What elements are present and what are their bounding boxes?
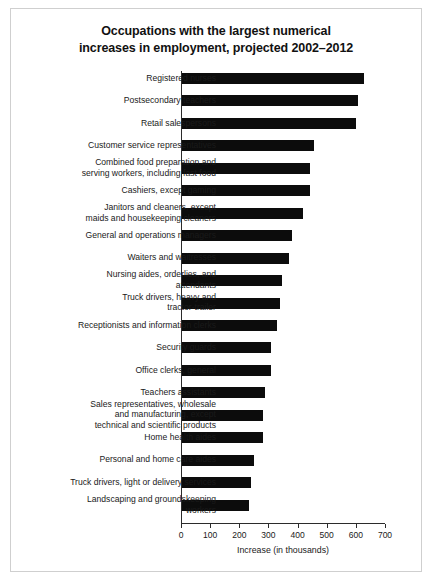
category-label: Teachers assistants: [20, 387, 216, 398]
x-axis-line: [181, 523, 385, 524]
x-tick-700: [385, 524, 386, 528]
category-label: Truck drivers, light or delivery service…: [20, 477, 216, 488]
category-label-line: Cashiers, except gaming: [20, 185, 216, 196]
x-tick-0: [181, 524, 182, 528]
chart-title-line-2: increases in employment, projected 2002–…: [25, 40, 407, 57]
category-label-line: Truck drivers, light or delivery service…: [20, 477, 216, 488]
category-label: Security guards: [20, 342, 216, 353]
x-tick-500: [327, 524, 328, 528]
x-tick-100: [210, 524, 211, 528]
chart-title-line-1: Occupations with the largest numerical: [25, 23, 407, 40]
x-tick-label-200: 200: [232, 530, 246, 540]
x-tick-label-100: 100: [203, 530, 217, 540]
category-label-line: Receptionists and information clerks: [20, 320, 216, 331]
category-label: Waiters and waitresses: [20, 252, 216, 263]
category-label-line: Nursing aides, orderlies, and: [20, 269, 216, 280]
category-label: Registered nurses: [20, 73, 216, 84]
category-label: General and operations managers: [20, 230, 216, 241]
category-label-line: serving workers, including fast food: [20, 168, 216, 179]
category-label-line: technical and scientific products: [20, 420, 216, 431]
category-label-line: Waiters and waitresses: [20, 252, 216, 263]
x-tick-label-700: 700: [378, 530, 392, 540]
category-label-line: Janitors and cleaners, except: [20, 202, 216, 213]
x-axis-title: Increase (in thousands): [181, 545, 385, 555]
category-label-line: Office clerks, general: [20, 365, 216, 376]
category-label: Postsecondary teachers: [20, 95, 216, 106]
x-tick-200: [239, 524, 240, 528]
category-label-line: Registered nurses: [20, 73, 216, 84]
plot-area: 0100200300400500600700 Registered nurses…: [181, 71, 394, 523]
category-label: Truck drivers, heavy andtractor-trailer: [20, 292, 216, 313]
x-tick-300: [268, 524, 269, 528]
category-label-line: tractor-trailer: [20, 302, 216, 313]
category-label-line: Personal and home care aides: [20, 454, 216, 465]
category-label: Personal and home care aides: [20, 454, 216, 465]
x-tick-label-400: 400: [290, 530, 304, 540]
category-label-line: maids and housekeeping cleaners: [20, 213, 216, 224]
x-tick-label-500: 500: [320, 530, 334, 540]
chart-figure: Occupations with the largest numerical i…: [10, 8, 422, 572]
x-tick-label-300: 300: [261, 530, 275, 540]
category-label: Cashiers, except gaming: [20, 185, 216, 196]
category-label: Landscaping and groundskeepingworkers: [20, 494, 216, 515]
x-tick-600: [356, 524, 357, 528]
category-label-line: Sales representatives, wholesale: [20, 399, 216, 410]
category-label: Combined food preparation andserving wor…: [20, 157, 216, 178]
category-label-line: Truck drivers, heavy and: [20, 292, 216, 303]
x-tick-label-0: 0: [179, 530, 184, 540]
x-tick-label-600: 600: [349, 530, 363, 540]
x-tick-400: [298, 524, 299, 528]
category-label: Janitors and cleaners, exceptmaids and h…: [20, 202, 216, 223]
category-label-line: Customer service representatives: [20, 140, 216, 151]
category-label: Receptionists and information clerks: [20, 320, 216, 331]
category-label-line: Combined food preparation and: [20, 157, 216, 168]
category-label-line: and manufacturing, except: [20, 409, 216, 420]
category-label-line: Security guards: [20, 342, 216, 353]
category-label: Home health aides: [20, 432, 216, 443]
category-label: Customer service representatives: [20, 140, 216, 151]
category-label-line: General and operations managers: [20, 230, 216, 241]
category-label-line: Postsecondary teachers: [20, 95, 216, 106]
category-label-line: Teachers assistants: [20, 387, 216, 398]
category-label: Nursing aides, orderlies, andattendants: [20, 269, 216, 290]
category-label: Retail salespersons: [20, 118, 216, 129]
category-label: Sales representatives, wholesaleand manu…: [20, 399, 216, 431]
category-label-line: workers: [20, 505, 216, 516]
category-label-line: attendants: [20, 280, 216, 291]
category-label-line: Landscaping and groundskeeping: [20, 494, 216, 505]
category-label: Office clerks, general: [20, 365, 216, 376]
category-label-line: Home health aides: [20, 432, 216, 443]
chart-title: Occupations with the largest numerical i…: [25, 23, 407, 57]
category-label-line: Retail salespersons: [20, 118, 216, 129]
